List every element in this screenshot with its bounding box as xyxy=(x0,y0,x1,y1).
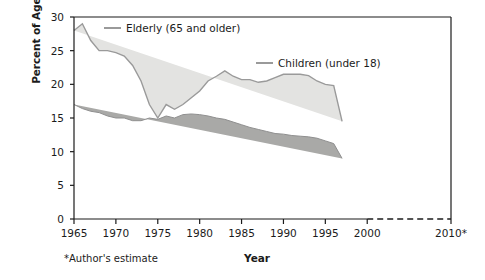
legend-label-children: Children (under 18) xyxy=(278,57,381,69)
y-tick-label: 0 xyxy=(30,214,64,224)
x-tick-label: 2010* xyxy=(421,228,481,239)
legend-label-elderly: Elderly (65 and older) xyxy=(126,22,240,34)
legend-line-swatch-elderly xyxy=(104,27,121,29)
y-tick-label: 10 xyxy=(30,147,64,157)
y-tick-label: 25 xyxy=(30,46,64,56)
x-axis-label: Year xyxy=(244,252,270,264)
legend-item-elderly: Elderly (65 and older) xyxy=(104,22,240,34)
chart-figure: Percent of Age Groups 302520151050 19651… xyxy=(0,0,485,280)
x-tick-label: 2000 xyxy=(337,228,397,239)
y-tick-label: 5 xyxy=(30,180,64,190)
y-tick-label: 15 xyxy=(30,113,64,123)
y-tick-label: 20 xyxy=(30,79,64,89)
chart-footnote: *Author's estimate xyxy=(64,253,158,264)
legend-item-children: Children (under 18) xyxy=(256,57,381,69)
y-tick-label: 30 xyxy=(30,12,64,22)
legend-line-swatch-children xyxy=(256,62,273,64)
